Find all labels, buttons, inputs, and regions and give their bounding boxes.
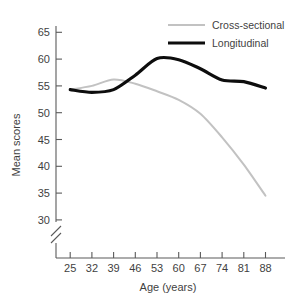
x-tick-label-53: 53 [151,262,163,274]
x-axis-title: Age (years) [140,281,197,293]
y-tick-label-65: 65 [38,26,50,38]
y-tick-label-50: 50 [38,107,50,119]
x-tick-label-60: 60 [173,262,185,274]
legend-label-cross-sectional: Cross-sectional [212,19,284,31]
x-tick-label-81: 81 [238,262,250,274]
y-tick-label-60: 60 [38,53,50,65]
series-line-longitudinal [70,57,265,92]
x-tick-marks [70,252,265,258]
legend-label-longitudinal: Longitudinal [212,37,269,49]
y-tick-label-40: 40 [38,160,50,172]
x-tick-label-32: 32 [86,262,98,274]
x-tick-label-46: 46 [129,262,141,274]
x-tick-label-25: 25 [64,262,76,274]
y-tick-marks [56,32,62,220]
y-tick-label-45: 45 [38,134,50,146]
y-tick-label-30: 30 [38,214,50,226]
line-chart: 65 60 55 50 45 40 35 30 25 32 39 46 53 6… [0,0,297,302]
y-axis-title: Mean scores [10,113,22,176]
chart-figure: 65 60 55 50 45 40 35 30 25 32 39 46 53 6… [0,0,297,302]
x-tick-label-88: 88 [259,262,271,274]
series-line-cross-sectional [70,79,265,195]
x-tick-label-74: 74 [216,262,228,274]
y-tick-label-55: 55 [38,80,50,92]
y-tick-label-35: 35 [38,187,50,199]
x-tick-label-39: 39 [107,262,119,274]
x-tick-label-67: 67 [194,262,206,274]
chart-legend: Cross-sectional Longitudinal [168,19,284,49]
